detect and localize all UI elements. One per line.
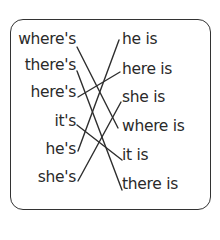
right-word-he-is: he is xyxy=(122,30,157,48)
right-word-there-is: there is xyxy=(122,175,178,193)
right-word-where-is: where is xyxy=(122,117,185,135)
left-word-hes: he's xyxy=(46,140,77,158)
left-word-theres: there's xyxy=(25,56,76,74)
right-word-here-is: here is xyxy=(122,60,172,78)
right-word-she-is: she is xyxy=(122,88,165,106)
left-word-shes: she's xyxy=(38,168,76,186)
right-word-it-is: it is xyxy=(122,146,148,164)
line-hes-to-he-is xyxy=(78,40,119,151)
left-word-wheres: where's xyxy=(18,30,76,48)
left-word-heres: here's xyxy=(31,83,76,101)
left-word-its: it's xyxy=(54,112,76,130)
